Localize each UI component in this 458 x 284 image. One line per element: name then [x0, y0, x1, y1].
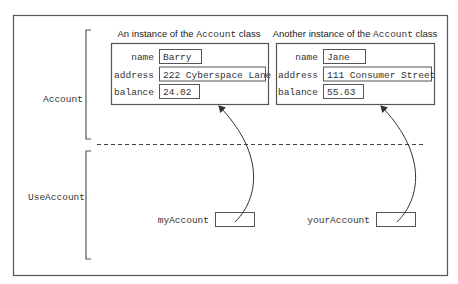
- section-label-useaccount: UseAccount: [28, 192, 85, 203]
- instance-caption-1: An instance of the Account class: [118, 28, 261, 40]
- field-value-address: 222 Cyberspace Lane: [163, 70, 272, 81]
- field-value-balance: 24.02: [163, 87, 192, 98]
- field-label-name: name: [295, 52, 318, 63]
- reference-label-youraccount: yourAccount: [307, 215, 370, 226]
- field-value-balance: 55.63: [327, 87, 356, 98]
- field-label-balance: balance: [114, 87, 154, 98]
- outer-frame: [14, 16, 448, 276]
- account-diagram: Account UseAccount An instance of the Ac…: [0, 0, 458, 284]
- reference-arrow-youraccount: [381, 106, 416, 222]
- field-value-name: Barry: [163, 52, 192, 63]
- reference-box-youraccount: [377, 213, 416, 227]
- reference-box-myaccount: [216, 213, 255, 227]
- field-label-address: address: [114, 70, 154, 81]
- instance-caption-2: Another instance of the Account class: [273, 28, 438, 40]
- useaccount-bracket: [86, 151, 91, 259]
- field-value-name: Jane: [327, 52, 350, 63]
- reference-label-myaccount: myAccount: [158, 215, 209, 226]
- section-label-account: Account: [43, 94, 83, 105]
- account-bracket: [86, 30, 91, 139]
- field-value-address: 111 Consumer Street: [327, 70, 435, 81]
- field-label-name: name: [131, 52, 154, 63]
- field-label-address: address: [278, 70, 318, 81]
- reference-arrow-myaccount: [219, 106, 254, 222]
- field-label-balance: balance: [278, 87, 318, 98]
